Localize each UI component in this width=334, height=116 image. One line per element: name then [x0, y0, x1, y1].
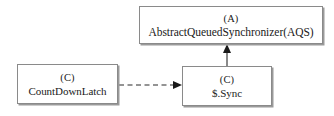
uml-class-box-abstractqueuedsynchronizer[interactable]: (A) AbstractQueuedSynchronizer(AQS) [139, 6, 323, 44]
uml-diagram-canvas: (A) AbstractQueuedSynchronizer(AQS) (C) … [0, 0, 334, 116]
class-name-abstractqueuedsynchronizer: AbstractQueuedSynchronizer(AQS) [148, 25, 313, 39]
class-name-countdownlatch: CountDownLatch [28, 84, 106, 98]
arrowhead-right-icon [173, 81, 182, 89]
uml-class-box-sync[interactable]: (C) $.Sync [182, 66, 272, 106]
class-stereotype-class-countdownlatch: (C) [60, 71, 74, 84]
class-stereotype-abstract: (A) [224, 12, 239, 25]
arrowhead-up-icon [223, 44, 231, 53]
class-name-sync: $.Sync [212, 86, 242, 100]
class-stereotype-class-sync: (C) [220, 73, 234, 86]
edge-sync-to-aqs [223, 44, 231, 66]
uml-class-box-countdownlatch[interactable]: (C) CountDownLatch [17, 64, 118, 104]
edge-countdownlatch-to-sync [119, 81, 182, 89]
